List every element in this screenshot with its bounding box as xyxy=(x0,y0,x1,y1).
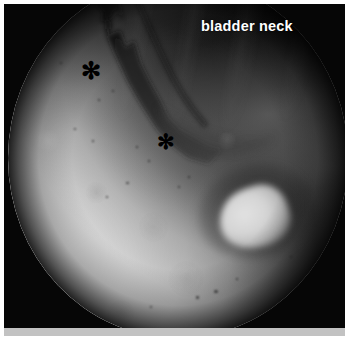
debris-speck xyxy=(60,62,62,64)
endoscopic-photo-frame: bladder neck ✻ ✻ xyxy=(4,4,345,328)
asterisk-marker-upper: ✻ xyxy=(81,59,101,83)
debris-speck xyxy=(136,146,138,148)
debris-speck xyxy=(148,160,150,162)
figure-root: bladder neck ✻ ✻ xyxy=(0,0,349,338)
debris-speck xyxy=(92,140,94,142)
label-bladder-neck: bladder neck xyxy=(201,18,293,34)
endoscope-circular-field xyxy=(8,4,345,328)
photo-bottom-strip xyxy=(4,328,345,336)
debris-speck xyxy=(74,128,76,130)
debris-speck xyxy=(178,186,180,188)
debris-speck xyxy=(236,278,238,280)
debris-speck xyxy=(106,196,108,198)
debris-speck xyxy=(126,182,129,184)
debris-speck xyxy=(150,306,152,308)
asterisk-marker-lower: ✻ xyxy=(157,131,175,152)
debris-speck xyxy=(112,90,114,92)
endoscope-vignette xyxy=(8,4,345,328)
debris-speck xyxy=(214,290,218,293)
debris-speck xyxy=(188,176,190,178)
